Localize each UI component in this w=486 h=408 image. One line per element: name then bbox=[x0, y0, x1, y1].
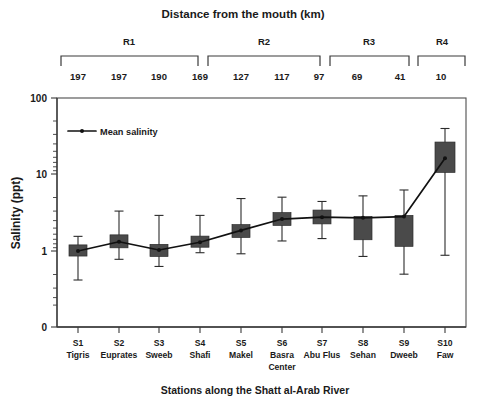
legend: Mean salinity bbox=[68, 127, 159, 137]
x-axis-title: Stations along the Shatt al-Arab River bbox=[161, 384, 349, 396]
region-bracket-r2 bbox=[208, 56, 320, 66]
mean-marker-s5 bbox=[239, 228, 243, 232]
station-name-s3: Sweeb bbox=[145, 350, 172, 360]
station-name-s5: Makel bbox=[229, 350, 253, 360]
y-tick-label-10: 10 bbox=[36, 169, 48, 180]
box-plot-series bbox=[69, 128, 455, 280]
mean-salinity-markers bbox=[76, 156, 447, 253]
y-tick-label-1: 1 bbox=[41, 246, 47, 257]
mean-marker-s2 bbox=[117, 240, 121, 244]
y-tick-label-100: 100 bbox=[30, 93, 47, 104]
distance-value-s6: 117 bbox=[274, 71, 289, 82]
region-label-r1: R1 bbox=[123, 36, 136, 47]
station-name-s6-line1: Basra bbox=[270, 350, 294, 360]
legend-entry-mean-salinity: Mean salinity bbox=[100, 127, 159, 137]
distance-value-s9: 41 bbox=[395, 71, 406, 82]
x-tick-label-s9: S9 bbox=[399, 338, 410, 348]
mean-marker-s10 bbox=[443, 156, 447, 160]
region-bracket-r1 bbox=[61, 56, 198, 66]
station-name-s1: Tigris bbox=[66, 350, 89, 360]
mean-marker-s3 bbox=[157, 248, 161, 252]
station-name-s8: Sehan bbox=[350, 350, 376, 360]
mean-marker-s6 bbox=[280, 217, 284, 221]
x-tick-label-s6: S6 bbox=[277, 338, 288, 348]
x-tick-label-s7: S7 bbox=[317, 338, 328, 348]
mean-marker-s9 bbox=[402, 215, 406, 219]
region-label-r3: R3 bbox=[363, 36, 375, 47]
region-label-r4: R4 bbox=[436, 36, 449, 47]
x-tick-label-s5: S5 bbox=[236, 338, 247, 348]
station-name-s2: Euprates bbox=[101, 350, 138, 360]
legend-marker-swatch bbox=[80, 129, 84, 133]
y-tick-label-0: 0 bbox=[41, 322, 47, 333]
station-name-s10: Faw bbox=[437, 350, 454, 360]
mean-marker-s8 bbox=[361, 216, 365, 220]
distance-value-s10: 10 bbox=[436, 71, 447, 82]
box-s8 bbox=[354, 217, 372, 240]
chart-figure: Distance from the mouth (km) R1 R2 R3 R4… bbox=[0, 0, 486, 408]
distance-value-s8: 69 bbox=[352, 71, 363, 82]
x-tick-label-s10: S10 bbox=[437, 338, 453, 348]
y-axis-title: Salinity (ppt) bbox=[9, 177, 23, 250]
x-tick-label-s8: S8 bbox=[358, 338, 369, 348]
station-name-s9: Dweeb bbox=[390, 350, 418, 360]
distance-value-s4: 169 bbox=[192, 71, 208, 82]
x-tick-label-s1: S1 bbox=[73, 338, 84, 348]
top-axis-title: Distance from the mouth (km) bbox=[162, 8, 325, 20]
station-name-s6-line2: Center bbox=[268, 362, 296, 372]
distance-value-s1: 197 bbox=[70, 71, 86, 82]
distance-value-s3: 190 bbox=[151, 71, 167, 82]
region-label-r2: R2 bbox=[258, 36, 270, 47]
station-name-s4: Shafi bbox=[189, 350, 210, 360]
distance-value-s5: 127 bbox=[233, 71, 249, 82]
distance-value-s2: 197 bbox=[111, 71, 127, 82]
region-bracket-r3 bbox=[330, 56, 409, 66]
region-bracket-r4 bbox=[418, 56, 465, 66]
chart-canvas: Distance from the mouth (km) R1 R2 R3 R4… bbox=[0, 0, 486, 408]
x-tick-label-s4: S4 bbox=[195, 338, 206, 348]
mean-marker-s1 bbox=[76, 249, 80, 253]
mean-marker-s7 bbox=[320, 215, 324, 219]
station-name-s7: Abu Flus bbox=[304, 350, 341, 360]
mean-salinity-line bbox=[78, 158, 445, 251]
x-tick-label-s2: S2 bbox=[114, 338, 125, 348]
distance-value-s7: 97 bbox=[314, 71, 325, 82]
box-s9 bbox=[395, 215, 413, 246]
x-ticks bbox=[78, 327, 445, 333]
mean-marker-s4 bbox=[198, 240, 202, 244]
x-tick-label-s3: S3 bbox=[154, 338, 165, 348]
